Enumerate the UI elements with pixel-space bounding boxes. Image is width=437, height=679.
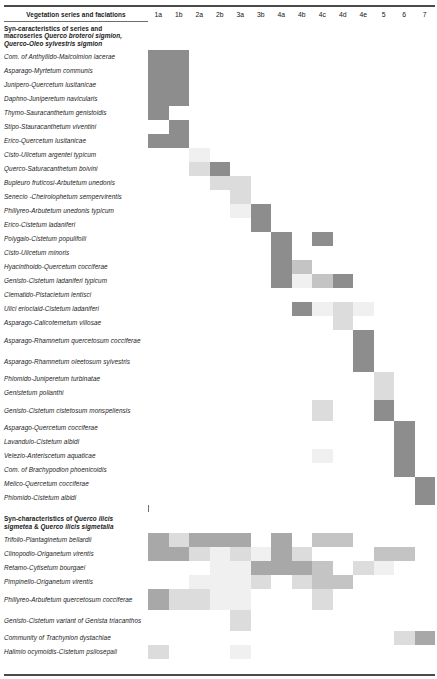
matrix-cell xyxy=(415,372,436,386)
matrix-cell xyxy=(333,148,354,162)
column-header-3a: 3a xyxy=(230,8,251,22)
matrix-cell xyxy=(333,92,354,106)
matrix-cell xyxy=(353,631,374,645)
matrix-cell xyxy=(210,302,231,316)
matrix-cell xyxy=(169,421,190,435)
matrix-cell xyxy=(394,631,415,645)
matrix-cell xyxy=(333,435,354,449)
matrix-cell xyxy=(333,64,354,78)
matrix-cell xyxy=(312,351,333,372)
matrix-cell xyxy=(292,274,313,288)
section-spacer-cell xyxy=(169,505,190,512)
row-label: Velezio-Anteriscetum aquaticae xyxy=(4,449,148,463)
table-row: Phlomido-Juniperetum turbinatae xyxy=(4,372,435,386)
matrix-cell xyxy=(210,463,231,477)
matrix-cell xyxy=(374,330,395,351)
matrix-cell xyxy=(353,330,374,351)
column-header-5: 5 xyxy=(374,8,395,22)
matrix-cell xyxy=(333,400,354,421)
column-header-4b: 4b xyxy=(292,8,313,22)
matrix-cell xyxy=(251,533,272,547)
section-spacer-cell xyxy=(353,505,374,512)
section-title: Syn-caracteristics of series andmacroser… xyxy=(4,22,148,51)
matrix-cell xyxy=(148,246,169,260)
matrix-cell xyxy=(251,190,272,204)
matrix-cell xyxy=(210,204,231,218)
matrix-cell xyxy=(189,589,210,610)
matrix-cell xyxy=(292,204,313,218)
table-row: Cisto-Ulicetum minoris xyxy=(4,246,435,260)
table-row: Thymo-Sauracanthetum genistoidis xyxy=(4,106,435,120)
row-label: Retamo-Cytisetum bourgaei xyxy=(4,561,148,575)
row-label: Lavandulo-Cistetum albidi xyxy=(4,435,148,449)
section-spacer-cell xyxy=(230,505,251,512)
matrix-cell xyxy=(271,491,292,505)
matrix-cell xyxy=(312,204,333,218)
section-title-cell xyxy=(148,512,169,533)
matrix-cell xyxy=(210,260,231,274)
matrix-cell xyxy=(394,78,415,92)
row-label: Asparago-Quercetum cocciferae xyxy=(4,421,148,435)
column-header-4d: 4d xyxy=(333,8,354,22)
matrix-cell xyxy=(353,218,374,232)
matrix-cell xyxy=(271,351,292,372)
matrix-cell xyxy=(251,547,272,561)
matrix-cell xyxy=(415,232,436,246)
matrix-cell xyxy=(415,477,436,491)
matrix-cell xyxy=(230,190,251,204)
matrix-cell xyxy=(251,491,272,505)
section-title-cell xyxy=(169,22,190,51)
matrix-cell xyxy=(210,232,231,246)
matrix-cell xyxy=(148,92,169,106)
row-label: Com. of Anthyllido-Malcolmion lacerae xyxy=(4,50,148,64)
matrix-cell xyxy=(210,246,231,260)
matrix-cell xyxy=(394,575,415,589)
table-row: Com. of Brachypodion phoenicoidis xyxy=(4,463,435,477)
matrix-cell xyxy=(148,64,169,78)
row-label: Pimpinello-Origanetum virentis xyxy=(4,575,148,589)
matrix-cell xyxy=(415,561,436,575)
matrix-cell xyxy=(312,561,333,575)
matrix-cell xyxy=(333,477,354,491)
matrix-cell xyxy=(353,274,374,288)
matrix-cell xyxy=(230,120,251,134)
section-spacer-cell xyxy=(210,505,231,512)
matrix-cell xyxy=(415,421,436,435)
table-row: Pimpinello-Origanetum virentis xyxy=(4,575,435,589)
matrix-cell xyxy=(169,610,190,631)
matrix-cell xyxy=(189,631,210,645)
matrix-cell xyxy=(271,274,292,288)
matrix-cell xyxy=(374,78,395,92)
matrix-cell xyxy=(230,533,251,547)
matrix-cell xyxy=(210,50,231,64)
matrix-cell xyxy=(292,316,313,330)
matrix-cell xyxy=(312,316,333,330)
table-row: Clematido-Pistacietum lentisci xyxy=(4,288,435,302)
matrix-cell xyxy=(251,120,272,134)
matrix-cell xyxy=(415,148,436,162)
matrix-cell xyxy=(210,533,231,547)
matrix-cell xyxy=(148,190,169,204)
label-column-header: Vegetation series and faciations xyxy=(4,8,148,22)
matrix-cell xyxy=(271,631,292,645)
matrix-cell xyxy=(251,330,272,351)
matrix-cell xyxy=(189,176,210,190)
row-label: Halimio ocymoidis-Cistetum psilosepali xyxy=(4,645,148,659)
matrix-cell xyxy=(169,218,190,232)
matrix-cell xyxy=(189,575,210,589)
table-row: Genisto-Cistetum cistetosum monspeliensi… xyxy=(4,400,435,421)
table-row: Cisto-Ulicetum argentei typicum xyxy=(4,148,435,162)
matrix-cell xyxy=(353,491,374,505)
matrix-cell xyxy=(333,351,354,372)
matrix-cell xyxy=(271,421,292,435)
matrix-cell xyxy=(148,50,169,64)
matrix-cell xyxy=(210,78,231,92)
matrix-cell xyxy=(353,64,374,78)
matrix-cell xyxy=(189,64,210,78)
matrix-cell xyxy=(148,134,169,148)
matrix-cell xyxy=(333,246,354,260)
matrix-cell xyxy=(292,246,313,260)
matrix-cell xyxy=(374,302,395,316)
matrix-cell xyxy=(374,421,395,435)
matrix-cell xyxy=(230,386,251,400)
